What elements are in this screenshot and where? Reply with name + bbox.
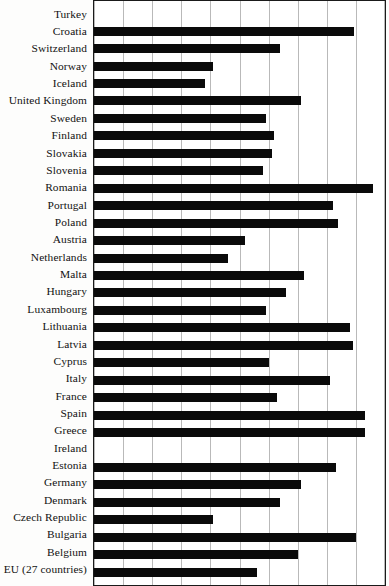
category-label-row: Romania: [0, 180, 93, 197]
bar: [94, 428, 365, 437]
bar-row: [94, 110, 385, 127]
bar-row: [94, 5, 385, 22]
bar: [94, 62, 213, 71]
bar: [94, 341, 353, 350]
bar: [94, 323, 350, 332]
category-label: France: [55, 391, 87, 403]
bar: [94, 254, 228, 263]
category-label-row: Greece: [0, 423, 93, 440]
category-label: Belgium: [47, 547, 87, 559]
category-label-row: Denmark: [0, 492, 93, 509]
category-label: Iceland: [53, 78, 87, 90]
category-label: EU (27 countries): [4, 564, 87, 576]
category-label-row: Latvia: [0, 336, 93, 353]
bar-row: [94, 424, 385, 441]
category-label-row: Turkey: [0, 6, 93, 23]
category-label: Croatia: [53, 26, 87, 38]
bar: [94, 463, 336, 472]
category-label: Cyprus: [53, 356, 87, 368]
category-label: Estonia: [52, 460, 87, 472]
category-label: Portugal: [48, 200, 87, 212]
category-label: United Kingdom: [9, 95, 87, 107]
bar-row: [94, 267, 385, 284]
category-label: Romania: [45, 182, 87, 194]
bar-row: [94, 145, 385, 162]
category-label-row: Germany: [0, 475, 93, 492]
bar: [94, 149, 272, 158]
category-label-row: Bulgaria: [0, 527, 93, 544]
bar: [94, 166, 263, 175]
bar-row: [94, 564, 385, 581]
bar-row: [94, 459, 385, 476]
category-label: Poland: [55, 217, 87, 229]
bar-row: [94, 92, 385, 109]
bar: [94, 201, 333, 210]
category-label-row: Slovakia: [0, 145, 93, 162]
category-label-row: Austria: [0, 232, 93, 249]
bar: [94, 568, 257, 577]
bar: [94, 79, 205, 88]
category-label-row: Lithuania: [0, 318, 93, 335]
bar: [94, 271, 304, 280]
bar: [94, 411, 365, 420]
category-label-row: Cyprus: [0, 353, 93, 370]
category-label-row: Belgium: [0, 544, 93, 561]
bar-row: [94, 529, 385, 546]
bar-row: [94, 476, 385, 493]
category-label: Luxambourg: [27, 304, 87, 316]
category-label: Germany: [44, 477, 87, 489]
bar-row: [94, 162, 385, 179]
category-label-row: EU (27 countries): [0, 562, 93, 579]
bar: [94, 376, 330, 385]
category-label: Greece: [54, 425, 87, 437]
bar-row: [94, 127, 385, 144]
category-label: Ireland: [54, 443, 87, 455]
bar-row: [94, 22, 385, 39]
bar: [94, 288, 286, 297]
chart-body: TurkeyCroatiaSwitzerlandNorwayIcelandUni…: [0, 0, 389, 586]
bar-row: [94, 75, 385, 92]
category-label: Finland: [51, 130, 87, 142]
category-label-row: Poland: [0, 214, 93, 231]
bar: [94, 27, 354, 36]
bar: [94, 533, 356, 542]
bar-row: [94, 214, 385, 231]
category-label-row: United Kingdom: [0, 93, 93, 110]
category-label-row: Portugal: [0, 197, 93, 214]
category-label-row: Norway: [0, 58, 93, 75]
plot-area: [93, 0, 386, 586]
category-label-row: Iceland: [0, 75, 93, 92]
bar-rows: [94, 5, 385, 581]
bar-row: [94, 319, 385, 336]
category-label: Bulgaria: [47, 529, 87, 541]
bar-row: [94, 337, 385, 354]
category-label-row: Czech Republic: [0, 509, 93, 526]
bar: [94, 480, 301, 489]
bar: [94, 114, 266, 123]
bar-row: [94, 406, 385, 423]
bar: [94, 498, 280, 507]
bar: [94, 236, 245, 245]
category-label-row: Netherlands: [0, 249, 93, 266]
bar-row: [94, 302, 385, 319]
category-label: Lithuania: [42, 321, 87, 333]
category-label-row: Ireland: [0, 440, 93, 457]
bar-row: [94, 232, 385, 249]
bar: [94, 219, 338, 228]
category-label: Austria: [53, 234, 87, 246]
bar-row: [94, 197, 385, 214]
category-label-row: France: [0, 388, 93, 405]
bar-row: [94, 494, 385, 511]
category-label: Hungary: [46, 286, 87, 298]
category-label: Spain: [61, 408, 87, 420]
category-label: Latvia: [57, 339, 87, 351]
bar-row: [94, 354, 385, 371]
category-label-row: Switzerland: [0, 41, 93, 58]
category-label: Czech Republic: [13, 512, 87, 524]
bar-row: [94, 284, 385, 301]
category-label: Italy: [66, 373, 87, 385]
category-label: Slovakia: [46, 148, 87, 160]
category-label: Netherlands: [31, 252, 87, 264]
bar: [94, 358, 269, 367]
category-label-row: Italy: [0, 371, 93, 388]
